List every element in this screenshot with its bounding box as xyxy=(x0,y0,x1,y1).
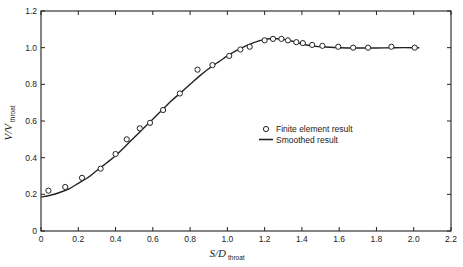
legend: Finite element result Smoothed result xyxy=(259,124,353,145)
data-point-marker xyxy=(160,107,165,112)
y-tick-label: 1.2 xyxy=(25,6,37,16)
data-point-marker xyxy=(310,42,315,47)
data-point-marker xyxy=(336,44,341,49)
y-axis-title-sub: throat xyxy=(9,105,16,122)
x-tick-label: 0.2 xyxy=(72,234,84,244)
plot-frame xyxy=(41,11,451,231)
data-point-marker xyxy=(247,44,252,49)
data-point-marker xyxy=(389,44,394,49)
x-tick-label: 1.2 xyxy=(259,234,271,244)
y-axis-title: V/V throat xyxy=(2,105,16,140)
data-point-marker xyxy=(351,45,356,50)
data-point-marker xyxy=(279,36,284,41)
x-tick-label: 1.8 xyxy=(371,234,383,244)
data-point-marker xyxy=(113,151,118,156)
x-tick-label: 1.4 xyxy=(296,234,308,244)
axis-ticks xyxy=(41,11,451,231)
legend-label-finite-element: Finite element result xyxy=(276,124,353,134)
data-point-marker xyxy=(137,126,142,131)
legend-label-smoothed: Smoothed result xyxy=(276,135,339,145)
data-point-marker xyxy=(227,53,232,58)
x-tick-label: 2.2 xyxy=(445,234,457,244)
y-tick-labels: 00.20.40.60.81.01.2 xyxy=(25,6,37,236)
x-tick-labels: 00.20.40.60.81.01.21.41.61.82.02.2 xyxy=(39,234,458,244)
x-tick-label: 1.6 xyxy=(333,234,345,244)
data-point-marker xyxy=(262,38,267,43)
data-point-marker xyxy=(195,67,200,72)
y-tick-label: 0.4 xyxy=(25,153,37,163)
data-point-marker xyxy=(177,91,182,96)
x-tick-label: 0.6 xyxy=(147,234,159,244)
data-point-marker xyxy=(147,120,152,125)
data-point-marker xyxy=(238,47,243,52)
finite-element-markers xyxy=(46,36,417,193)
y-tick-label: 0.2 xyxy=(25,189,37,199)
data-point-marker xyxy=(320,43,325,48)
y-tick-label: 0.6 xyxy=(25,116,37,126)
legend-open-circle-icon xyxy=(263,126,268,131)
y-tick-label: 1.0 xyxy=(25,43,37,53)
data-point-marker xyxy=(63,184,68,189)
data-point-marker xyxy=(412,45,417,50)
chart: 00.20.40.60.81.01.21.41.61.82.02.2 00.20… xyxy=(0,0,463,267)
x-tick-label: 0.8 xyxy=(184,234,196,244)
x-tick-label: 2.0 xyxy=(408,234,420,244)
x-axis-title: S/D throat xyxy=(210,247,245,261)
data-point-marker xyxy=(124,137,129,142)
x-tick-label: 0 xyxy=(39,234,44,244)
smoothed-result-line xyxy=(41,39,419,198)
y-axis-title-main: V/V xyxy=(2,123,14,141)
data-point-marker xyxy=(300,40,305,45)
x-axis-title-sub: throat xyxy=(228,254,245,261)
data-point-marker xyxy=(285,38,290,43)
data-point-marker xyxy=(98,166,103,171)
y-tick-label: 0 xyxy=(32,226,37,236)
data-point-marker xyxy=(79,175,84,180)
x-tick-label: 0.4 xyxy=(110,234,122,244)
data-point-marker xyxy=(294,40,299,45)
data-point-marker xyxy=(46,188,51,193)
data-point-marker xyxy=(270,36,275,41)
y-tick-label: 0.8 xyxy=(25,79,37,89)
data-point-marker xyxy=(365,45,370,50)
x-tick-label: 1.0 xyxy=(221,234,233,244)
x-axis-title-main: S/D xyxy=(210,247,227,259)
data-point-marker xyxy=(210,62,215,67)
